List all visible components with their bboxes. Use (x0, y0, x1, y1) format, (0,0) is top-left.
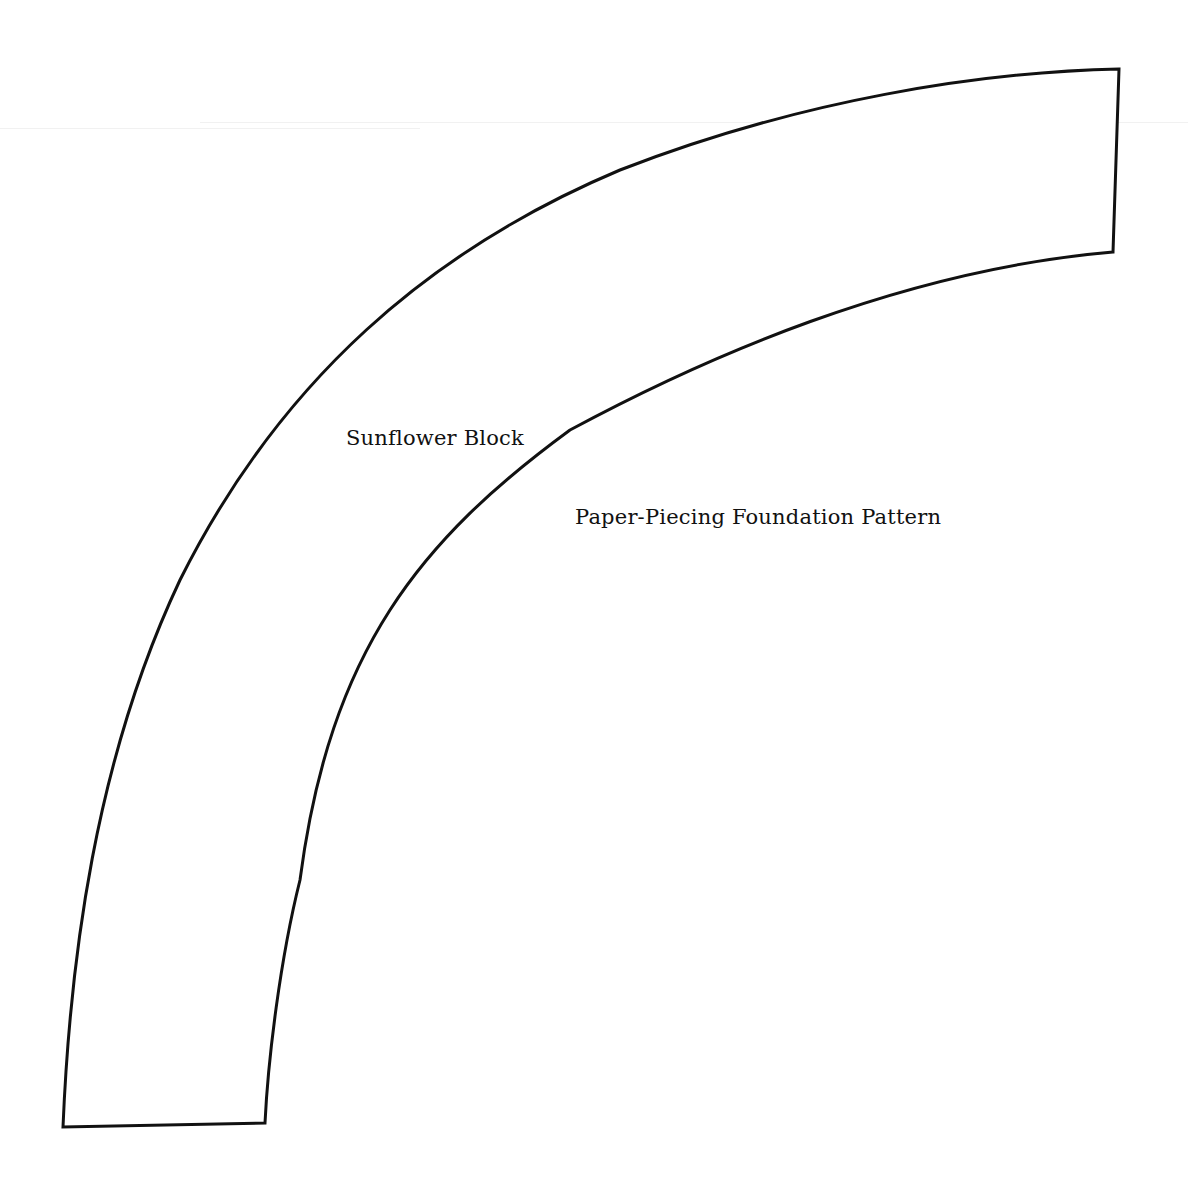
arc-band-outline (0, 0, 1188, 1201)
pattern-page: Sunflower Block Paper-Piecing Foundation… (0, 0, 1188, 1201)
arc-band-shape (63, 69, 1119, 1127)
pattern-subtitle: Paper-Piecing Foundation Pattern (575, 505, 941, 529)
block-title: Sunflower Block (346, 426, 524, 450)
